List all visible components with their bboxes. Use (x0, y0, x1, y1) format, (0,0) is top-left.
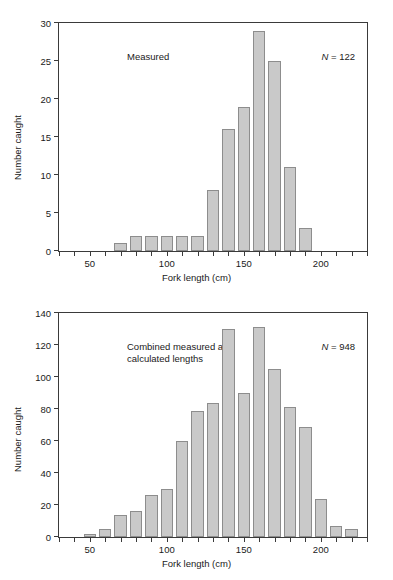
x-axis-tick (213, 251, 214, 256)
y-axis-tick-label: 60 (40, 436, 51, 446)
histogram-bar (207, 403, 219, 537)
x-axis-tick (213, 537, 214, 542)
y-axis-tick (54, 174, 59, 175)
x-axis-tick (305, 251, 306, 256)
y-axis-tick-label: 5 (46, 208, 51, 218)
histogram-bar (176, 236, 188, 251)
x-axis-tick (105, 251, 106, 256)
x-axis-tick (198, 251, 199, 256)
y-axis-tick-label: 30 (40, 18, 51, 28)
histogram-figure: Number caught Measured N = 122 051015202… (0, 0, 393, 580)
bar-series-top (59, 23, 367, 251)
histogram-bar (345, 529, 357, 537)
histogram-bar (253, 327, 265, 537)
y-axis-tick (54, 312, 59, 313)
histogram-bar (207, 190, 219, 251)
x-axis-title-top: Fork length (cm) (162, 272, 231, 283)
x-axis-tick (305, 537, 306, 542)
histogram-bar (130, 511, 142, 537)
x-axis-tick (290, 251, 291, 256)
y-axis-title-bottom: Number caught (12, 407, 23, 472)
x-axis-tick-label: 50 (85, 545, 96, 555)
y-axis-tick-label: 120 (35, 340, 51, 350)
histogram-bar (315, 499, 327, 537)
x-axis-tick (336, 537, 337, 542)
x-axis-tick-label: 100 (159, 259, 175, 269)
x-axis-tick-label: 50 (85, 259, 96, 269)
y-axis-tick (54, 136, 59, 137)
x-axis-tick (105, 537, 106, 542)
x-axis-tick (90, 537, 91, 542)
x-axis-tick (275, 537, 276, 542)
x-axis-tick (367, 537, 368, 542)
y-axis-tick (54, 344, 59, 345)
x-axis-tick-label: 200 (313, 259, 329, 269)
x-axis-tick (90, 251, 91, 256)
histogram-bar (268, 61, 280, 251)
y-axis-tick (54, 408, 59, 409)
x-axis-tick (336, 251, 337, 256)
x-axis-tick (352, 537, 353, 542)
histogram-bar (222, 329, 234, 537)
histogram-bar (191, 411, 203, 537)
y-axis-tick-label: 20 (40, 94, 51, 104)
x-axis-tick (275, 251, 276, 256)
x-axis-tick (198, 537, 199, 542)
x-axis-tick (182, 537, 183, 542)
x-axis-tick (321, 251, 322, 256)
histogram-bar (114, 243, 126, 251)
x-axis-tick (228, 537, 229, 542)
histogram-bar (284, 167, 296, 251)
x-axis-tick-label: 200 (313, 545, 329, 555)
histogram-bar (176, 441, 188, 537)
histogram-bar (268, 369, 280, 537)
x-axis-tick (59, 537, 60, 542)
histogram-bar (145, 236, 157, 251)
histogram-bar (330, 526, 342, 537)
y-axis-tick (54, 60, 59, 61)
y-axis-tick-label: 25 (40, 56, 51, 66)
y-axis-tick (54, 98, 59, 99)
panel-measured: Number caught Measured N = 122 051015202… (0, 0, 393, 290)
y-axis-tick (54, 22, 59, 23)
histogram-bar (99, 529, 111, 537)
x-axis-tick (136, 251, 137, 256)
x-axis-tick-label: 100 (159, 545, 175, 555)
panel-combined: Number caught Combined measured and calc… (0, 290, 393, 580)
histogram-bar (145, 495, 157, 537)
y-axis-tick-label: 20 (40, 500, 51, 510)
bar-series-bottom (59, 313, 367, 537)
histogram-bar (191, 236, 203, 251)
x-axis-tick (259, 537, 260, 542)
histogram-bar (238, 393, 250, 537)
histogram-bar (253, 31, 265, 251)
histogram-bar (161, 236, 173, 251)
y-axis-tick-label: 100 (35, 372, 51, 382)
histogram-bar (161, 489, 173, 537)
x-axis-tick (121, 537, 122, 542)
x-axis-tick (121, 251, 122, 256)
y-axis-tick-label: 15 (40, 132, 51, 142)
x-axis-tick (182, 251, 183, 256)
plot-area-top: Measured N = 122 051015202530 5010015020… (58, 22, 368, 252)
x-axis-tick (244, 537, 245, 542)
x-axis-tick (352, 251, 353, 256)
y-axis-tick (54, 504, 59, 505)
x-axis-tick (167, 537, 168, 542)
x-axis-tick (151, 251, 152, 256)
y-axis-tick (54, 440, 59, 441)
x-axis-tick (74, 537, 75, 542)
x-axis-tick-label: 150 (236, 545, 252, 555)
x-axis-title-bottom: Fork length (cm) (162, 558, 231, 569)
plot-area-bottom: Combined measured and calculated lengths… (58, 312, 368, 538)
y-axis-tick-label: 0 (46, 246, 51, 256)
y-axis-tick-label: 10 (40, 170, 51, 180)
histogram-bar (222, 129, 234, 251)
x-axis-tick (151, 537, 152, 542)
y-axis-tick-label: 40 (40, 468, 51, 478)
x-axis-tick (228, 251, 229, 256)
y-axis-tick-label: 0 (46, 532, 51, 542)
x-axis-tick (244, 251, 245, 256)
x-axis-tick (367, 251, 368, 256)
y-axis-tick-label: 80 (40, 404, 51, 414)
